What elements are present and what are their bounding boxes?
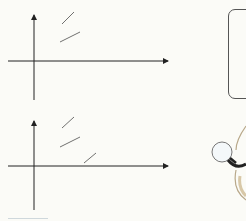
current-graph — [8, 117, 168, 210]
footer-rule — [8, 218, 48, 219]
i0-leader — [84, 153, 96, 163]
voltage-graph — [8, 12, 168, 100]
i2-leader — [62, 117, 74, 128]
waveform-figures — [0, 0, 246, 221]
magnifier-lens — [212, 142, 232, 162]
character-illustration — [212, 126, 246, 200]
i1-leader — [60, 137, 80, 147]
v1-leader — [62, 12, 74, 24]
v2-leader — [60, 32, 80, 42]
side-note-box — [228, 9, 246, 99]
